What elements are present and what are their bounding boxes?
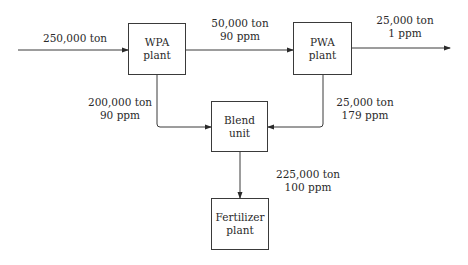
pwa-plant-label-line2: plant xyxy=(309,49,336,62)
pwa-plant-box: PWA plant xyxy=(293,22,352,75)
wpa-plant-label-line1: WPA xyxy=(145,36,169,49)
fertilizer-plant-label-line2: plant xyxy=(226,224,253,237)
wpa-to-pwa-concentration: 90 ppm xyxy=(205,30,275,43)
blend-unit-box: Blend unit xyxy=(211,101,268,152)
wpa-to-blend-concentration: 90 ppm xyxy=(85,109,155,122)
fertilizer-plant-label-line1: Fertilizer xyxy=(215,211,264,224)
blend-unit-label-line2: unit xyxy=(229,127,250,140)
pwa-output-concentration: 1 ppm xyxy=(370,27,440,40)
wpa-to-blend-stream-label: 200,000 ton 90 ppm xyxy=(85,96,155,122)
fertilizer-plant-box: Fertilizer plant xyxy=(211,198,269,250)
blend-to-fertilizer-tonnage: 225,000 ton xyxy=(273,168,343,181)
wpa-to-blend-arrow xyxy=(157,75,211,127)
pwa-output-tonnage: 25,000 ton xyxy=(370,14,440,27)
pwa-output-stream-label: 25,000 ton 1 ppm xyxy=(370,14,440,40)
pwa-plant-label-line1: PWA xyxy=(310,36,335,49)
feed-stream-label: 250,000 ton xyxy=(40,32,110,45)
blend-unit-label-line1: Blend xyxy=(224,114,255,127)
pwa-to-blend-arrow xyxy=(268,75,323,127)
wpa-to-pwa-stream-label: 50,000 ton 90 ppm xyxy=(205,17,275,43)
blend-to-fertilizer-concentration: 100 ppm xyxy=(273,181,343,194)
wpa-to-blend-tonnage: 200,000 ton xyxy=(85,96,155,109)
pwa-to-blend-concentration: 179 ppm xyxy=(330,109,400,122)
blend-to-fertilizer-stream-label: 225,000 ton 100 ppm xyxy=(273,168,343,194)
feed-tonnage: 250,000 ton xyxy=(40,32,110,45)
wpa-to-pwa-tonnage: 50,000 ton xyxy=(205,17,275,30)
pwa-to-blend-tonnage: 25,000 ton xyxy=(330,96,400,109)
pwa-to-blend-stream-label: 25,000 ton 179 ppm xyxy=(330,96,400,122)
wpa-plant-box: WPA plant xyxy=(128,23,186,75)
wpa-plant-label-line2: plant xyxy=(143,49,170,62)
